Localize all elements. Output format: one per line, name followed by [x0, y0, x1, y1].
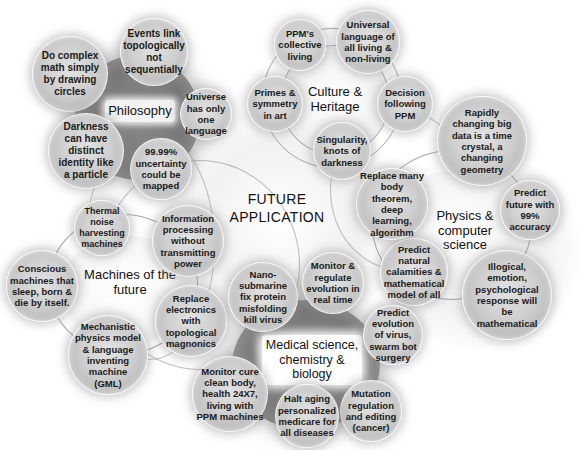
- bubble-gml-machine[interactable]: Mechanistic physics model & language inv…: [68, 315, 148, 395]
- bubble-halt-aging[interactable]: Halt aging personalized medicare for all…: [275, 384, 339, 448]
- bubble-thermal-noise[interactable]: Thermal noise harvesting machines: [74, 200, 130, 256]
- bubble-topological-magnonics[interactable]: Replace electronics with topological mag…: [155, 285, 227, 357]
- bubble-predict-future[interactable]: Predict future with 99% accuracy: [500, 180, 560, 240]
- bubble-predict-calamities[interactable]: Predict natural calamities & mathematica…: [380, 238, 448, 306]
- bubble-universe-language[interactable]: Universe has only one language: [180, 88, 232, 140]
- bubble-mutation-regulation[interactable]: Mutation regulation and editing (cancer): [340, 380, 402, 442]
- bubble-nano-submarine[interactable]: Nano-submarine fix protein misfolding ki…: [228, 262, 298, 332]
- bubble-ppm-collective[interactable]: PPM's collective living: [274, 19, 326, 71]
- bubble-universal-language[interactable]: Universal language of all living & non-l…: [336, 10, 400, 74]
- bubble-information-processing[interactable]: Information processing without transmitt…: [152, 205, 224, 277]
- culture-hub-label: Culture & Heritage: [295, 78, 375, 122]
- bubble-uncertainty[interactable]: 99.99% uncertainty could be mapped: [130, 138, 192, 200]
- bubble-conscious-machines[interactable]: Conscious machines that sleep, born & di…: [6, 250, 78, 322]
- bubble-big-data-time-crystal[interactable]: Rapidly changing big data is a time crys…: [437, 96, 527, 186]
- medical-hub-label: Medical science, chemistry & biology: [262, 335, 362, 385]
- bubble-replace-many-body[interactable]: Replace many body theorem, deep learning…: [356, 168, 428, 240]
- center-title: FUTURE APPLICATION: [222, 190, 332, 226]
- bubble-monitor-cure[interactable]: Monitor cure clean body, health 24X7, li…: [192, 356, 268, 432]
- bubble-decision-ppm[interactable]: Decision following PPM: [377, 76, 433, 132]
- bubble-illogical-emotion[interactable]: Illogical, emotion, psychological respon…: [462, 250, 552, 340]
- bubble-darkness-particle[interactable]: Darkness can have distinct identity like…: [48, 113, 124, 189]
- bubble-regulate-evolution[interactable]: Monitor & regulate evolution in real tim…: [302, 252, 364, 314]
- philosophy-hub-label: Philosophy: [105, 100, 175, 122]
- bubble-primes-symmetry[interactable]: Primes & symmetry in art: [247, 76, 303, 132]
- bubble-events-link[interactable]: Events link topologically not sequential…: [120, 18, 188, 86]
- bubble-complex-math[interactable]: Do complex math simply by drawing circle…: [32, 36, 108, 112]
- bubble-predict-virus-evolution[interactable]: Predict evolution of virus, swarm bot su…: [363, 305, 423, 365]
